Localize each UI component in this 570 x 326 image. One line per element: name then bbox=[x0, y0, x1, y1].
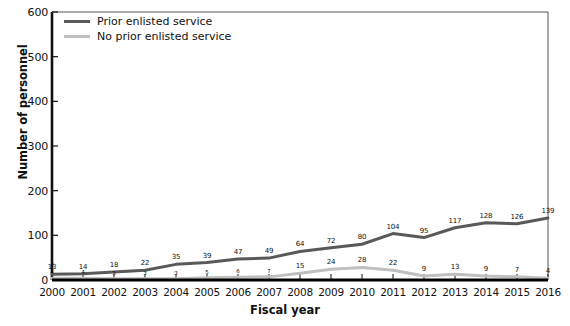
data-point-label: 4 bbox=[50, 269, 53, 275]
legend-label-noprior: No prior enlisted service bbox=[97, 31, 231, 42]
data-point-label: 4 bbox=[81, 269, 84, 275]
data-point-label: 4 bbox=[546, 267, 550, 275]
data-point-label: 5 bbox=[205, 269, 208, 275]
data-point-label: 22 bbox=[389, 259, 398, 267]
data-point-label: 22 bbox=[141, 259, 150, 267]
legend: Prior enlisted service No prior enlisted… bbox=[64, 14, 231, 44]
data-point-label: 126 bbox=[511, 213, 524, 221]
data-point-label: 7 bbox=[515, 266, 519, 274]
data-point-label: 95 bbox=[420, 227, 429, 235]
data-point-label: 15 bbox=[296, 262, 305, 270]
data-point-label: 9 bbox=[484, 265, 488, 273]
data-point-label: 72 bbox=[327, 237, 336, 245]
data-point-label: 3 bbox=[112, 270, 115, 276]
legend-item-1: No prior enlisted service bbox=[64, 29, 231, 44]
data-point-label: 7 bbox=[267, 268, 270, 274]
data-point-label: 128 bbox=[480, 212, 493, 220]
data-point-label: 139 bbox=[542, 207, 555, 215]
data-point-label: 9 bbox=[422, 265, 426, 273]
data-point-label: 13 bbox=[451, 263, 460, 271]
data-point-label: 117 bbox=[449, 217, 462, 225]
legend-item-0: Prior enlisted service bbox=[64, 14, 231, 29]
data-point-label: 3 bbox=[143, 270, 146, 276]
data-point-label: 18 bbox=[110, 261, 119, 269]
data-point-label: 6 bbox=[236, 268, 239, 274]
legend-swatch-prior bbox=[64, 20, 90, 23]
data-point-label: 64 bbox=[296, 240, 305, 248]
data-point-label: 104 bbox=[387, 223, 400, 231]
data-point-label: 35 bbox=[172, 253, 181, 261]
data-point-label: 49 bbox=[265, 247, 274, 255]
data-point-label: 3 bbox=[174, 270, 177, 276]
data-point-label: 24 bbox=[327, 258, 336, 266]
legend-swatch-noprior bbox=[64, 35, 90, 38]
data-point-label: 80 bbox=[358, 233, 367, 241]
data-point-label: 47 bbox=[234, 248, 243, 256]
legend-label-prior: Prior enlisted service bbox=[97, 16, 212, 27]
data-point-label: 28 bbox=[358, 256, 367, 264]
data-point-label: 39 bbox=[203, 252, 212, 260]
line-chart: Number of personnel Fiscal year 01002003… bbox=[0, 0, 570, 326]
plot-canvas bbox=[0, 0, 570, 326]
